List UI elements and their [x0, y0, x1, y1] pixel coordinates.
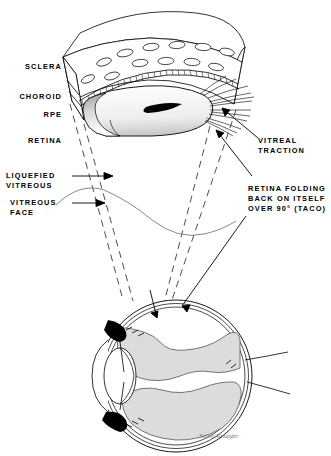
- label-liquefied-vitreous-line2: VITREOUS: [6, 181, 53, 191]
- leader-retina-folding-globe: [182, 216, 246, 306]
- artist-signature: Norris/Alexander: [199, 433, 239, 439]
- label-choroid: CHOROID: [2, 92, 62, 102]
- label-retina: RETINA: [2, 136, 62, 146]
- leader-lines: [72, 108, 258, 318]
- label-vitreous-face-line2: FACE: [10, 208, 34, 218]
- label-retina-folding-line1: RETINA FOLDING: [248, 184, 326, 194]
- lens: [104, 348, 136, 404]
- eye-globe-cross-section: [92, 300, 290, 452]
- optic-nerve-upper: [245, 352, 288, 360]
- leader-retina-folding-upper: [216, 130, 252, 176]
- optic-nerve-lower: [247, 382, 290, 394]
- vitreous-face-curve: [56, 188, 236, 235]
- label-rpe: RPE: [2, 110, 62, 120]
- label-retina-folding-line3: OVER 90° (TACO): [248, 204, 326, 214]
- label-liquefied-vitreous-line1: LIQUEFIED: [6, 171, 55, 181]
- label-vitreal-traction-line2: TRACTION: [258, 146, 305, 156]
- label-vitreous-face-line1: VITREOUS: [10, 198, 57, 208]
- folded-retina-flap: [83, 86, 213, 136]
- label-retina-folding-line2: BACK ON ITSELF: [248, 194, 325, 204]
- label-vitreal-traction-line1: VITREAL: [258, 136, 297, 146]
- label-sclera: SCLERA: [2, 62, 62, 72]
